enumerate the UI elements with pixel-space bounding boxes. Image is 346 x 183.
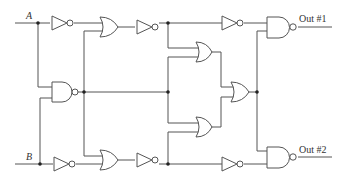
- not-gate-top2: [222, 16, 243, 30]
- output-label-1: Out #1: [299, 13, 327, 24]
- or-gate-right: [231, 82, 249, 102]
- nand-gate-out2: [267, 147, 296, 168]
- junction-middle: [166, 90, 170, 94]
- not-gate-bottom2: [222, 157, 243, 171]
- output-label-2: Out #2: [299, 144, 327, 155]
- input-label-b: B: [26, 151, 32, 162]
- junction-bottom: [166, 162, 170, 166]
- nand-gate-middle: [52, 82, 78, 102]
- junction-right: [255, 90, 259, 94]
- junction-nand-mid: [82, 90, 86, 94]
- junction-a: [36, 21, 40, 25]
- or-gate-bottom: [100, 150, 118, 170]
- junction-b: [38, 162, 42, 166]
- junction-top: [166, 21, 170, 25]
- or-gate-upper: [196, 42, 212, 62]
- or-gate-lower: [196, 117, 212, 137]
- nand-gate-out1: [267, 17, 296, 38]
- or-gate-top: [100, 17, 118, 37]
- not-gate-top: [137, 20, 158, 34]
- input-label-a: A: [25, 10, 33, 21]
- not-gate-b: [54, 157, 75, 171]
- not-gate-a: [52, 16, 73, 30]
- not-gate-bottom: [137, 153, 158, 167]
- logic-circuit-diagram: A B Out #1 Out #2: [0, 0, 346, 183]
